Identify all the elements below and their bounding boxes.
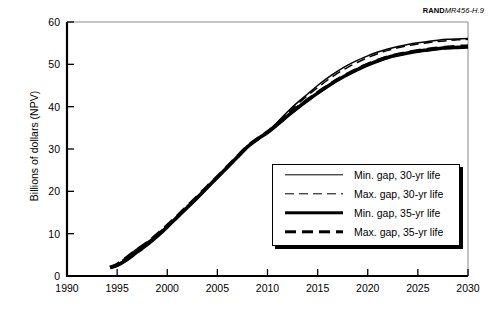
legend-line-sample [285,174,343,175]
legend-label: Max. gap, 35-yr life [354,226,443,238]
figure: RANDMR456-H.9 Billions of dollars (NPV) … [0,0,492,314]
legend-swatch-icon [283,226,345,238]
legend-item: Min. gap, 30-yr life [273,165,459,184]
legend-line-sample [285,211,343,214]
legend-item: Max. gap, 35-yr life [273,222,459,241]
plot-area [0,0,492,314]
legend-swatch-icon [283,207,345,219]
legend-label: Min. gap, 30-yr life [354,169,440,181]
legend-label: Max. gap, 30-yr life [354,188,443,200]
legend-item: Min. gap, 35-yr life [273,203,459,222]
legend-label: Min. gap, 35-yr life [354,207,440,219]
chart-legend: Min. gap, 30-yr lifeMax. gap, 30-yr life… [272,164,460,246]
legend-line-sample [285,193,343,194]
legend-item: Max. gap, 30-yr life [273,184,459,203]
legend-swatch-icon [283,169,345,181]
legend-line-sample [285,230,343,233]
legend-swatch-icon [283,188,345,200]
